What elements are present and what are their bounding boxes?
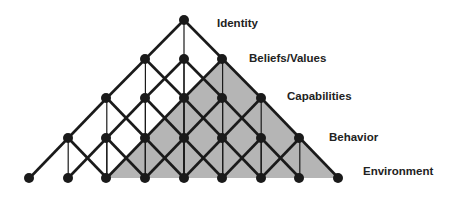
diagonal-link [145, 20, 184, 59]
node-dot [63, 173, 73, 183]
node-dot [179, 54, 189, 64]
node-dot [101, 173, 111, 183]
level-label-beliefs-values: Beliefs/Values [249, 52, 326, 64]
node-dot [217, 54, 227, 64]
neurological-levels-diagram: Identity Beliefs/Values Capabilities Beh… [0, 0, 459, 197]
node-dot [140, 93, 150, 103]
node-dot [217, 173, 227, 183]
node-dot [179, 93, 189, 103]
node-dot [256, 133, 266, 143]
level-label-capabilities: Capabilities [287, 90, 352, 102]
level-label-behavior: Behavior [329, 131, 378, 143]
diagonal-link [107, 59, 146, 98]
node-dot [294, 133, 304, 143]
node-dot [24, 173, 34, 183]
node-dot [63, 133, 73, 143]
node-dot [179, 133, 189, 143]
diagonal-link [30, 138, 69, 178]
level-label-identity: Identity [217, 17, 258, 29]
diagonal-link [68, 98, 107, 138]
node-dot [101, 133, 111, 143]
node-dot [140, 133, 150, 143]
node-dot [256, 93, 266, 103]
level-label-environment: Environment [363, 165, 433, 177]
node-dot [217, 93, 227, 103]
node-dot [140, 173, 150, 183]
node-dot [179, 15, 189, 25]
node-dot [256, 173, 266, 183]
node-dot [217, 133, 227, 143]
node-dot [294, 173, 304, 183]
node-dot [333, 173, 343, 183]
node-dot [101, 93, 111, 103]
node-dot [179, 173, 189, 183]
node-dot [140, 54, 150, 64]
